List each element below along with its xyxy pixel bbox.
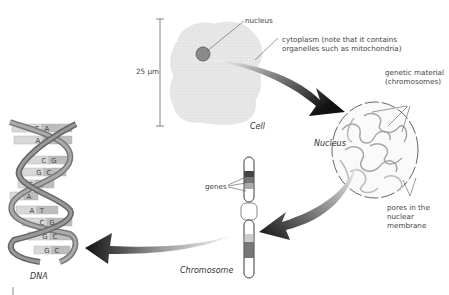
base-letter: A [30,207,35,215]
base-letter: C [55,247,60,255]
genes-label: genes [205,182,227,191]
cytoplasm-label-2: organelles such as mitochondria) [282,44,402,53]
pores-label-3: membrane [387,221,426,230]
scale-label: 25 μm [136,67,159,76]
cytoplasm-label-1: cytoplasm (note that it contains [282,35,397,44]
base-letter: G [44,247,49,255]
arrow-chromosome-to-dna [85,233,236,264]
dna-title: DNA [30,272,48,281]
base-letter: T [39,207,45,215]
base-letter: C [42,157,47,165]
cell-nucleus [196,47,210,61]
chromosome-illustration [241,157,257,278]
genetic-material-label-2: (chromosomes) [385,77,441,86]
genes-leader-lines [228,177,246,191]
cell-title: Cell [250,122,265,131]
base-letter: A [27,193,32,201]
base-letter: G [51,157,56,165]
cell-illustration [170,22,262,124]
nucleus-illustration [332,102,418,198]
nucleus-title: Nucleus [314,139,346,148]
pores-label-1: pores in the [387,203,430,212]
chromosome-title: Chromosome [180,266,233,275]
base-letter: G [36,169,41,177]
dna-illustration: TAATCGGCGCTAATCGGCGC [10,122,76,262]
pores-label-2: nuclear [387,212,414,221]
genetic-material-label-1: genetic material [385,68,444,77]
nucleus-label: nucleus [245,16,273,25]
